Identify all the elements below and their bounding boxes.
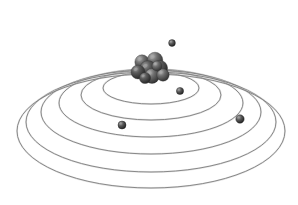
nucleon-9 [152, 61, 162, 71]
bohr-model-illustration [0, 0, 298, 205]
electron-1 [169, 40, 176, 47]
electron-4 [236, 115, 244, 123]
electron-2 [176, 87, 183, 94]
electron-3 [118, 121, 126, 129]
atom-diagram-canvas [0, 0, 298, 205]
nucleon-8 [139, 72, 150, 83]
